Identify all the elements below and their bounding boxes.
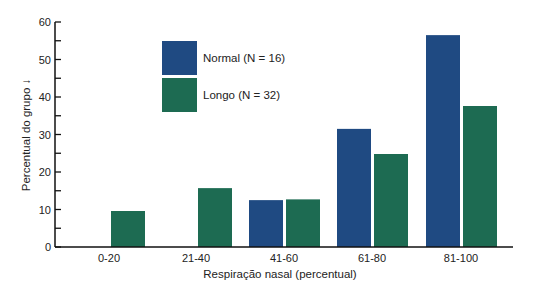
y-tick-label: 50 bbox=[39, 54, 51, 66]
y-axis-title: Percentual do grupo ↓ bbox=[20, 79, 32, 192]
bar-normal-81-100 bbox=[426, 35, 460, 247]
bar-longo-81-100 bbox=[463, 106, 497, 247]
bar-longo-61-80 bbox=[374, 154, 408, 247]
legend-label-normal: Normal (N = 16) bbox=[203, 52, 285, 64]
legend-label-longo: Longo (N = 32) bbox=[203, 89, 280, 101]
legend-swatch-normal bbox=[162, 41, 197, 75]
bar-normal-61-80 bbox=[337, 129, 371, 247]
x-tick-label: 21-40 bbox=[182, 252, 210, 264]
legend-swatch-longo bbox=[162, 78, 197, 112]
x-axis-title: Respiração nasal (percentual) bbox=[203, 268, 357, 280]
y-tick-label: 10 bbox=[39, 204, 51, 216]
bar-longo-41-60 bbox=[286, 199, 320, 247]
y-tick-label: 0 bbox=[45, 241, 51, 253]
legend: Normal (N = 16) Longo (N = 32) bbox=[162, 40, 285, 114]
x-tick-label: 61-80 bbox=[358, 252, 386, 264]
bar-longo-0-20 bbox=[111, 211, 145, 247]
x-tick-label: 41-60 bbox=[270, 252, 298, 264]
y-tick-label: 30 bbox=[39, 129, 51, 141]
x-tick-label: 0-20 bbox=[98, 252, 120, 264]
x-tick-label: 81-100 bbox=[444, 252, 478, 264]
y-tick-label: 20 bbox=[39, 166, 51, 178]
bar-normal-41-60 bbox=[249, 200, 283, 247]
legend-item-longo: Longo (N = 32) bbox=[162, 77, 285, 112]
y-tick-label: 60 bbox=[39, 16, 51, 28]
y-tick-label: 40 bbox=[39, 91, 51, 103]
bar-longo-21-40 bbox=[198, 188, 232, 247]
legend-item-normal: Normal (N = 16) bbox=[162, 40, 285, 75]
